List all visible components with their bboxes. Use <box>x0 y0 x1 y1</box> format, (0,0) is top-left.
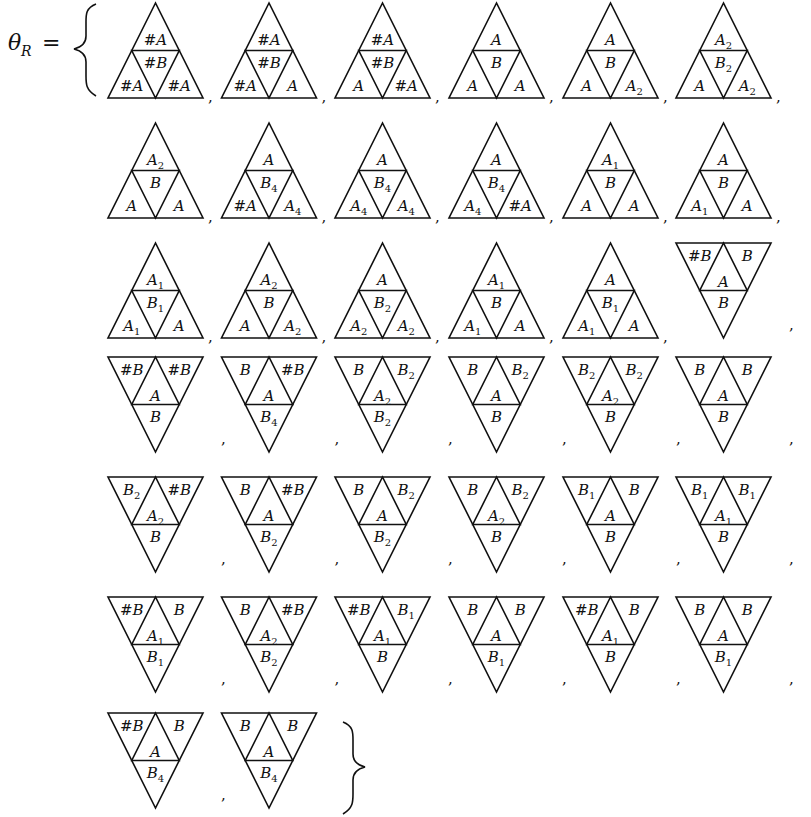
cell-label: B <box>466 601 478 619</box>
cell-label: B2 <box>373 528 391 548</box>
cell-label-base: A <box>145 151 158 169</box>
cell-label: #A <box>371 31 395 49</box>
cell-label-subscript: 4 <box>271 417 277 428</box>
cell-label-base: B <box>373 528 385 546</box>
cell-label-subscript: 1 <box>613 160 619 171</box>
cell-label: A1 <box>462 317 481 337</box>
cell-label-base: B <box>352 361 364 379</box>
cell-label-base: A <box>624 77 637 95</box>
cell-label-base: A <box>740 197 753 215</box>
triangle-element-down: #BB1A1B <box>335 597 430 692</box>
cell-label-base: B <box>604 528 616 546</box>
cell-label-base: B <box>693 601 705 619</box>
triangle-element-up: #A#B#AA <box>222 3 317 98</box>
cell-label-base: #A <box>234 77 258 95</box>
comma-separator: , <box>221 670 226 688</box>
cell-label-base: A <box>692 77 705 95</box>
cell-label: A <box>489 151 502 169</box>
cell-label-base: #B <box>688 247 712 265</box>
cell-label-subscript: 2 <box>271 280 277 291</box>
triangle-element-up: AB4A4A4 <box>335 123 430 218</box>
cell-label-base: B <box>604 648 616 666</box>
cell-label: B <box>376 648 388 666</box>
comma-separator: , <box>221 430 226 448</box>
cell-label: A4 <box>348 197 367 217</box>
cell-label-base: #A <box>257 31 281 49</box>
cell-label-base: B <box>514 601 526 619</box>
triangle-element-up: A1BAA <box>563 123 658 218</box>
cell-label-subscript: 2 <box>636 86 642 97</box>
cell-label-base: A <box>600 627 613 645</box>
cell-label: B <box>239 481 251 499</box>
cell-label-base: A <box>716 151 729 169</box>
cell-label: A <box>627 197 640 215</box>
triangle-element-down: B#BA2B2 <box>222 597 317 692</box>
cell-label: #A <box>234 77 258 95</box>
comma-separator: , <box>663 328 668 346</box>
cell-label: A4 <box>462 197 481 217</box>
cell-label-subscript: 4 <box>295 206 301 217</box>
cell-label-base: A <box>262 151 275 169</box>
cell-label: B <box>149 528 161 546</box>
triangle-element-up: #A#BA#A <box>335 3 430 98</box>
cell-label: B1 <box>577 481 595 501</box>
cell-label-base: B <box>239 717 251 735</box>
cell-label-base: A <box>172 197 185 215</box>
cell-label: A <box>148 387 161 405</box>
cell-label-base: #B <box>347 601 371 619</box>
cell-label-subscript: 1 <box>613 303 619 314</box>
cell-label-subscript: 2 <box>158 516 164 527</box>
cell-label: A1 <box>145 627 164 647</box>
cell-label-subscript: 1 <box>589 326 595 337</box>
cell-label-base: #B <box>575 601 599 619</box>
cell-label-subscript: 2 <box>271 636 277 647</box>
cell-label: B <box>149 408 161 426</box>
cell-label-base: B <box>259 764 271 782</box>
comma-separator: , <box>776 88 781 106</box>
cell-label: #B <box>575 601 599 619</box>
cell-label: #A <box>120 77 144 95</box>
cell-label: #B <box>281 601 305 619</box>
triangle-element-up: AB2A2A2 <box>335 243 430 338</box>
cell-label-base: B <box>466 361 478 379</box>
triangle-element-down: BB2AB <box>449 357 544 452</box>
cell-label: B <box>286 717 298 735</box>
cell-label-base: A <box>576 317 589 335</box>
cell-label-base: A <box>603 507 616 525</box>
cell-label-subscript: 2 <box>134 490 140 501</box>
cell-label-base: B <box>717 174 729 192</box>
cell-label: B4 <box>487 174 505 194</box>
cell-label: A2 <box>624 77 643 97</box>
comma-separator: , <box>208 208 213 226</box>
cell-label-base: A <box>372 387 385 405</box>
cell-label-base: A <box>262 387 275 405</box>
cell-label: A1 <box>121 317 140 337</box>
cell-label: #A <box>509 197 533 215</box>
cell-label: B2 <box>373 408 391 428</box>
cell-label-base: A <box>282 317 295 335</box>
cell-label-base: A <box>513 77 526 95</box>
cell-label-subscript: 2 <box>726 63 732 74</box>
cell-label: A <box>716 273 729 291</box>
cell-label-subscript: 2 <box>523 490 529 501</box>
theta-subscript: R <box>20 43 32 59</box>
comma-separator: , <box>549 328 554 346</box>
cell-label: A <box>375 151 388 169</box>
cell-label-subscript: 4 <box>158 773 164 784</box>
cell-label-base: A <box>489 627 502 645</box>
cell-label: B <box>352 481 364 499</box>
cell-label: A <box>375 507 388 525</box>
triangle-element-up: A1B1A1A <box>108 243 203 338</box>
cell-label: A <box>740 197 753 215</box>
cell-label-base: B <box>466 601 478 619</box>
cell-label: #B <box>257 54 281 72</box>
triangle-element-down: #BBA1B1 <box>108 597 203 692</box>
cell-label: A <box>172 197 185 215</box>
cell-label-base: #B <box>281 481 305 499</box>
comma-separator: , <box>789 430 794 448</box>
cell-label-base: #B <box>167 361 191 379</box>
comma-separator: , <box>676 430 681 448</box>
cell-label: B2 <box>714 54 732 74</box>
cell-label: A <box>351 77 364 95</box>
cell-label-base: A <box>258 271 271 289</box>
